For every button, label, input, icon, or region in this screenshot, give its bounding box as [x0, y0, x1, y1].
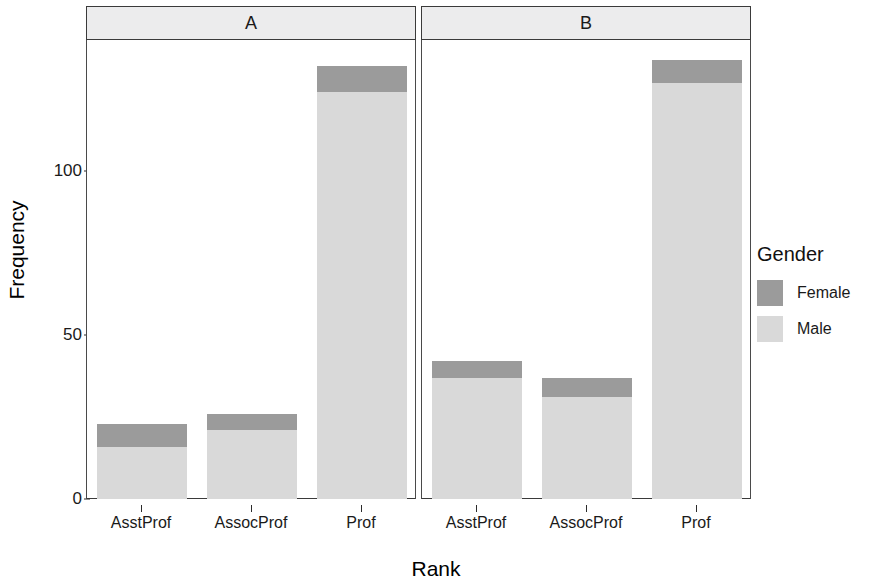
- facet-strip-a-label: A: [245, 13, 257, 34]
- y-tick-label: 0: [24, 489, 82, 509]
- bar-segment-male: [432, 378, 522, 499]
- x-tick-label-assocprof: AssocProf: [550, 514, 623, 532]
- legend-title: Gender: [757, 243, 867, 266]
- bar-a-prof[interactable]: [317, 66, 407, 499]
- bar-segment-female: [97, 424, 187, 447]
- chart-root: Frequency 050100 A AsstProfAssocProfProf…: [0, 0, 872, 587]
- x-axis-b: AsstProfAssocProfProf: [421, 505, 751, 545]
- x-tick-label-prof: Prof: [681, 514, 710, 532]
- x-axis-title: Rank: [0, 557, 872, 581]
- bar-a-asstprof[interactable]: [97, 424, 187, 499]
- x-tick-label-asstprof: AsstProf: [446, 514, 506, 532]
- x-tick-mark: [361, 505, 362, 512]
- facet-panel-a: A AsstProfAssocProfProf: [86, 6, 416, 499]
- bar-segment-female: [317, 66, 407, 92]
- bar-segment-male: [207, 430, 297, 499]
- x-tick-mark: [476, 505, 477, 512]
- x-tick-label-asstprof: AsstProf: [111, 514, 171, 532]
- bar-segment-male: [542, 397, 632, 499]
- facet-plot-area-a: [86, 40, 416, 499]
- bar-b-prof[interactable]: [652, 60, 742, 499]
- x-axis-title-text: Rank: [411, 557, 460, 580]
- bar-b-asstprof[interactable]: [432, 361, 522, 499]
- facet-strip-a: A: [86, 6, 416, 40]
- bar-segment-female: [432, 361, 522, 377]
- bar-segment-female: [652, 60, 742, 83]
- y-tick-label: 100: [24, 161, 82, 181]
- legend-item-male[interactable]: Male: [757, 316, 867, 342]
- facet-panel-b: B AsstProfAssocProfProf: [421, 6, 751, 499]
- facet-strip-b-label: B: [580, 13, 592, 34]
- facet-strip-b: B: [421, 6, 751, 40]
- x-axis-a: AsstProfAssocProfProf: [86, 505, 416, 545]
- y-axis-ticks: 050100: [22, 0, 82, 587]
- x-tick-mark: [251, 505, 252, 512]
- legend-item-female[interactable]: Female: [757, 280, 867, 306]
- facet-plot-area-b: [421, 40, 751, 499]
- legend-key-male: [757, 316, 783, 342]
- legend-key-female: [757, 280, 783, 306]
- x-tick-label-assocprof: AssocProf: [215, 514, 288, 532]
- legend: Gender Female Male: [757, 243, 867, 352]
- legend-label-male: Male: [797, 320, 832, 338]
- bar-segment-male: [97, 447, 187, 499]
- bar-segment-male: [317, 92, 407, 499]
- legend-label-female: Female: [797, 284, 850, 302]
- bar-segment-male: [652, 83, 742, 499]
- x-tick-mark: [696, 505, 697, 512]
- x-tick-label-prof: Prof: [346, 514, 375, 532]
- x-tick-mark: [141, 505, 142, 512]
- y-tick-label: 50: [24, 325, 82, 345]
- bar-b-assocprof[interactable]: [542, 378, 632, 499]
- bar-segment-female: [542, 378, 632, 398]
- x-tick-mark: [586, 505, 587, 512]
- bar-segment-female: [207, 414, 297, 430]
- bar-a-assocprof[interactable]: [207, 414, 297, 499]
